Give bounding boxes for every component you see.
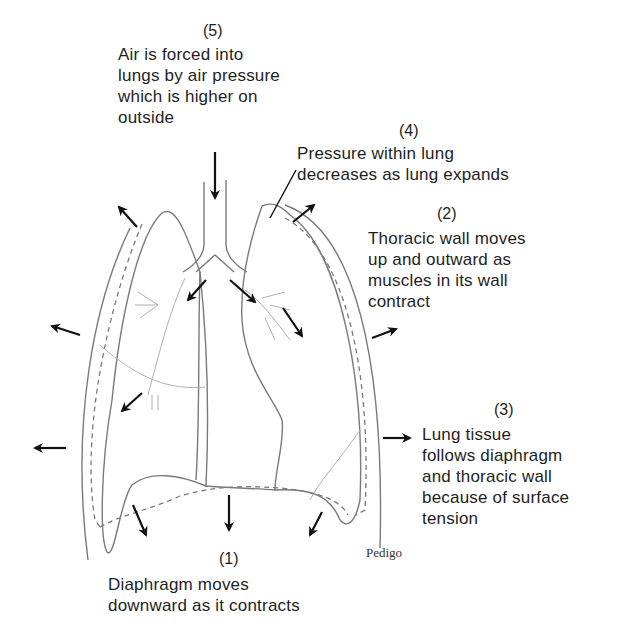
step-2-text: Thoracic wall moves up and outward as mu… — [368, 228, 526, 312]
diaphragm-line — [100, 487, 348, 527]
step-3-line: follows diaphragm — [422, 445, 569, 466]
step-1-line: Diaphragm moves — [108, 574, 300, 595]
step-3-line: because of surface — [422, 487, 569, 508]
step-3-number: (3) — [494, 401, 514, 419]
step-4-line: decreases as lung expands — [297, 164, 509, 185]
step-5-text: Air is forced into lungs by air pressure… — [118, 44, 280, 128]
step-2-line: contract — [368, 291, 526, 312]
thoracic-wall-right — [285, 205, 381, 548]
arrow-wall-up-left-icon — [119, 207, 137, 227]
step-3-text: Lung tissue follows diaphragm and thorac… — [422, 424, 569, 529]
pointer-line-step-4 — [270, 170, 296, 218]
arrows — [35, 152, 410, 535]
lung-diagram — [0, 0, 627, 634]
right-lung — [205, 204, 361, 524]
arrow-right-lung-icon — [283, 308, 302, 336]
step-5-line: lungs by air pressure — [118, 65, 280, 86]
step-1-text: Diaphragm moves downward as it contracts — [108, 574, 300, 616]
step-2-line: up and outward as — [368, 249, 526, 270]
left-lung — [100, 212, 207, 553]
step-3-line: and thoracic wall — [422, 466, 569, 487]
arrow-left-lung-icon — [122, 393, 142, 411]
step-2-line: Thoracic wall moves — [368, 228, 526, 249]
step-5-line: Air is forced into — [118, 44, 280, 65]
arrow-bronchus-left-icon — [188, 280, 206, 300]
step-2-line: muscles in its wall — [368, 270, 526, 291]
step-4-text: Pressure within lung decreases as lung e… — [297, 143, 509, 185]
step-4-line: Pressure within lung — [297, 143, 509, 164]
step-3-line: tension — [422, 508, 569, 529]
step-2-number: (2) — [437, 205, 457, 223]
arrow-wall-out-right-icon — [372, 329, 396, 338]
step-1-line: downward as it contracts — [108, 595, 300, 616]
step-5-number: (5) — [203, 22, 223, 40]
step-3-line: Lung tissue — [422, 424, 569, 445]
artist-signature: Pedigo — [366, 545, 402, 561]
step-5-line: outside — [118, 107, 280, 128]
step-5-line: which is higher on — [118, 86, 280, 107]
arrow-wall-out-left-icon — [52, 326, 80, 335]
step-4-number: (4) — [399, 122, 419, 140]
arrow-diaphragm-right-icon — [310, 512, 322, 535]
step-1-number: (1) — [219, 550, 239, 568]
